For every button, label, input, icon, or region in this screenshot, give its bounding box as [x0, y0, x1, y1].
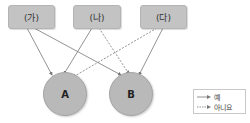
source-label-da: (다) [156, 11, 171, 24]
legend-yes-label: 예 [214, 92, 220, 102]
source-box-da: (다) [140, 5, 187, 29]
source-label-ga: (가) [24, 11, 39, 24]
edge-na-b [99, 28, 129, 74]
legend-no: 아니요 [197, 102, 242, 112]
edge-ga-a [27, 28, 52, 75]
legend-no-label: 아니요 [214, 102, 232, 112]
target-label-a: A [61, 89, 69, 100]
target-label-b: B [127, 89, 135, 100]
source-box-na: (나) [73, 5, 121, 29]
edge-da-b [139, 28, 163, 75]
legend: 예 아니요 [193, 89, 246, 114]
dashed-arrow-icon [197, 104, 211, 110]
edge-na-a [64, 28, 92, 74]
target-node-b: B [109, 72, 153, 116]
source-label-na: (나) [89, 11, 104, 24]
target-node-a: A [43, 72, 87, 116]
source-box-ga: (가) [8, 5, 55, 29]
solid-arrow-icon [197, 94, 211, 100]
legend-yes: 예 [197, 92, 242, 102]
